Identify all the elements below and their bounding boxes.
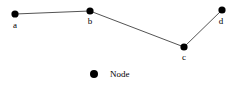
graph-node-label: c — [182, 53, 186, 62]
graph-node-label: b — [88, 17, 93, 26]
graph-node-label: d — [219, 17, 224, 26]
legend-node-marker-icon — [90, 70, 98, 78]
graph-edge — [90, 11, 184, 47]
edge-layer — [15, 10, 222, 47]
legend: Node — [90, 67, 170, 81]
graph-edge — [184, 10, 222, 47]
graph-edge — [15, 11, 90, 14]
graph-node[interactable] — [218, 6, 225, 13]
graph-node[interactable] — [86, 7, 93, 14]
graph-node[interactable] — [180, 43, 187, 50]
legend-node-label: Node — [110, 69, 130, 79]
node-graph-figure: abcd Node — [0, 0, 241, 88]
graph-node[interactable] — [11, 10, 18, 17]
graph-node-label: a — [13, 21, 17, 30]
